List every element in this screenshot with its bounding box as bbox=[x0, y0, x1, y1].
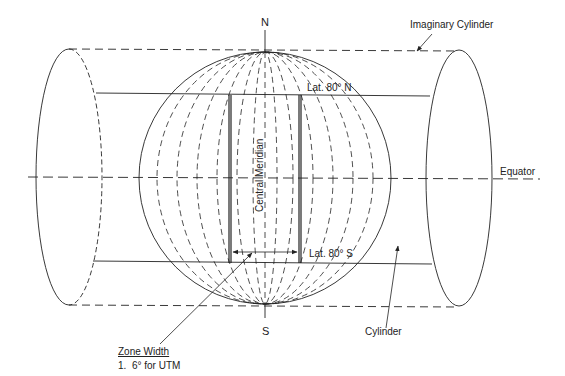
cylinder-label: Cylinder bbox=[365, 326, 402, 338]
right-cylinder-end bbox=[426, 50, 492, 306]
equator-line bbox=[28, 177, 540, 179]
imaginary-cylinder-label: Imaginary Cylinder bbox=[410, 19, 493, 31]
zone-width-leader bbox=[160, 253, 252, 344]
lat-80-south-label: Lat. 80° S bbox=[309, 248, 353, 260]
cylinder-top-edge bbox=[69, 49, 459, 51]
south-label: S bbox=[262, 325, 269, 337]
equator-label: Equator bbox=[500, 166, 535, 178]
zone-width-title: Zone Width bbox=[118, 346, 169, 358]
zone-width-item: 1. 6° for UTM bbox=[118, 360, 180, 372]
imaginary-cylinder-leader bbox=[417, 34, 432, 51]
central-meridian-label: Central Meridian bbox=[254, 139, 266, 212]
north-label: N bbox=[261, 16, 269, 28]
lat-80-north-label: Lat. 80° N bbox=[307, 82, 352, 94]
lat-80-south-line bbox=[93, 261, 432, 264]
diagram-canvas bbox=[0, 0, 565, 376]
lat-80-north-line bbox=[96, 93, 430, 96]
cylinder-bottom-edge bbox=[69, 305, 459, 307]
cylinder-leader bbox=[386, 246, 398, 328]
